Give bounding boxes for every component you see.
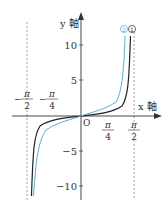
svg-text:2: 2 <box>122 26 126 33</box>
curve-2-label: 2 <box>120 25 127 33</box>
y-tick-label-10: 10 <box>64 40 77 51</box>
svg-text:2: 2 <box>24 101 30 111</box>
svg-text:4: 4 <box>105 132 111 142</box>
svg-text:−: − <box>14 94 22 104</box>
y-tick-label-neg10: −10 <box>56 181 77 192</box>
svg-text:1: 1 <box>130 26 134 33</box>
svg-text:π: π <box>48 89 56 99</box>
x-tick-label-pi-4: π 4 <box>102 120 114 142</box>
curve-1-label: 1 <box>128 25 135 33</box>
x-tick-label-neg-pi-2: − π 2 <box>14 89 33 111</box>
svg-text:π: π <box>23 89 31 99</box>
y-axis-arrow <box>78 12 84 20</box>
origin-label: O <box>83 118 90 128</box>
svg-text:−: − <box>39 94 47 104</box>
y-tick-label-neg5: −5 <box>62 146 77 157</box>
svg-text:π: π <box>104 120 112 130</box>
svg-text:2: 2 <box>131 132 137 142</box>
y-axis-label: y 軸 <box>59 17 79 29</box>
svg-text:π: π <box>130 120 138 130</box>
y-tick-label-5: 5 <box>71 75 77 86</box>
svg-text:4: 4 <box>49 101 55 111</box>
x-axis-arrow <box>154 113 162 119</box>
x-tick-label-pi-2: π 2 <box>128 120 140 142</box>
x-axis-label: x 軸 <box>138 100 157 112</box>
x-tick-label-neg-pi-4: − π 4 <box>39 89 58 111</box>
tangent-graph: 10 5 −5 −10 − π 2 − π 4 π 4 π 2 y 軸 x 軸 … <box>0 0 165 211</box>
